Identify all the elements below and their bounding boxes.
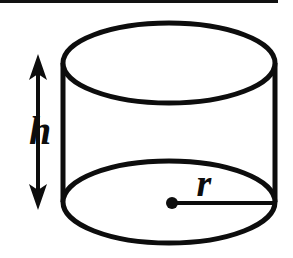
radius-label: r [197, 162, 213, 204]
top-horizontal-rule [0, 0, 278, 3]
cylinder-diagram-canvas: h r [0, 0, 293, 258]
height-label: h [29, 108, 51, 153]
radius-center-dot [166, 197, 178, 209]
cylinder-figure: h r [0, 0, 293, 258]
cylinder-top-ellipse [63, 23, 275, 103]
